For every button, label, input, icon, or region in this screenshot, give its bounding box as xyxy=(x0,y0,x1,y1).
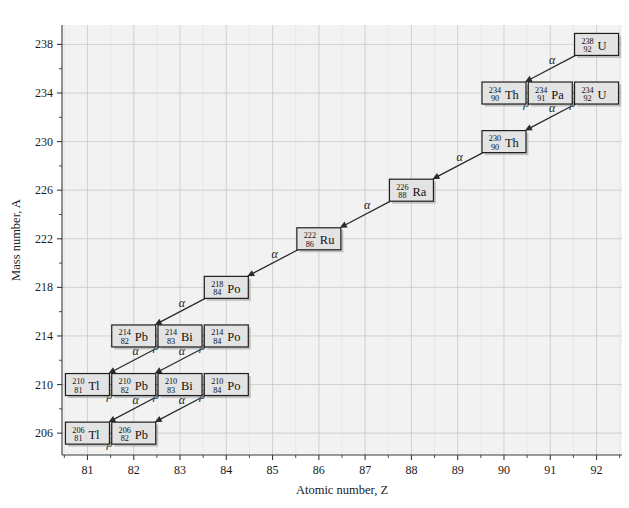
atomic-number: 84 xyxy=(213,288,221,297)
x-tick-label: 91 xyxy=(544,463,556,477)
element-symbol: Pb xyxy=(135,428,148,442)
atomic-number: 90 xyxy=(491,143,499,152)
element-symbol: Th xyxy=(505,136,520,150)
atomic-number: 82 xyxy=(121,337,129,346)
element-symbol: Po xyxy=(227,282,240,296)
nuclide-box[interactable]: 20682Pb xyxy=(112,422,159,447)
nuclide-box[interactable]: 23090Th xyxy=(482,131,529,156)
nuclide-box[interactable]: 21884Po xyxy=(204,276,251,301)
element-symbol: Tl xyxy=(88,379,100,393)
y-tick-label: 210 xyxy=(35,378,53,392)
element-symbol: Bi xyxy=(181,330,193,344)
x-tick-label: 83 xyxy=(174,463,186,477)
element-symbol: Bi xyxy=(181,379,193,393)
nuclide-box[interactable]: 21083Bi xyxy=(158,374,205,399)
nuclide-box[interactable]: 20681Tl xyxy=(65,422,112,447)
y-tick-label: 230 xyxy=(35,135,53,149)
atomic-number: 91 xyxy=(537,94,545,103)
y-tick-label: 218 xyxy=(35,280,53,294)
nuclide-box[interactable]: 23492U xyxy=(575,82,622,107)
x-tick-label: 82 xyxy=(128,463,140,477)
atomic-number: 86 xyxy=(306,240,314,249)
atomic-number: 84 xyxy=(213,386,221,395)
x-axis-title: Atomic number, Z xyxy=(296,483,388,497)
y-tick-label: 222 xyxy=(35,232,53,246)
nuclide-box[interactable]: 22688Ra xyxy=(389,179,436,204)
atomic-number: 82 xyxy=(121,434,129,443)
nuclide-box[interactable]: 23892U xyxy=(575,33,622,58)
atomic-number: 83 xyxy=(167,386,175,395)
atomic-number: 83 xyxy=(167,337,175,346)
nuclide-box[interactable]: 21483Bi xyxy=(158,325,205,350)
element-symbol: Pa xyxy=(551,88,564,102)
y-tick-label: 234 xyxy=(35,86,53,100)
atomic-number: 90 xyxy=(491,94,499,103)
x-tick-label: 88 xyxy=(405,463,417,477)
nuclide-box[interactable]: 23491Pa xyxy=(528,82,575,107)
nuclide-box[interactable]: 21482Pb xyxy=(112,325,159,350)
y-axis-title: Mass number, A xyxy=(9,199,23,281)
x-tick-label: 84 xyxy=(220,463,232,477)
atomic-number: 81 xyxy=(74,386,82,395)
decay-label-alpha: α xyxy=(271,247,278,261)
atomic-number: 82 xyxy=(121,386,129,395)
element-symbol: Ra xyxy=(412,185,426,199)
nuclide-box[interactable]: 21084Po xyxy=(204,374,251,399)
atomic-number: 92 xyxy=(583,45,591,54)
element-symbol: Po xyxy=(227,330,240,344)
x-tick-label: 92 xyxy=(591,463,603,477)
nuclide-box[interactable]: 22286Ru xyxy=(297,228,344,253)
x-tick-label: 86 xyxy=(313,463,325,477)
element-symbol: Pb xyxy=(135,379,148,393)
element-symbol: Ru xyxy=(320,233,335,247)
atomic-number: 92 xyxy=(583,94,591,103)
y-tick-label: 214 xyxy=(35,329,53,343)
atomic-number: 88 xyxy=(398,191,406,200)
nuclide-box[interactable]: 23490Th xyxy=(482,82,529,107)
nuclide-box[interactable]: 21082Pb xyxy=(112,374,159,399)
element-symbol: Th xyxy=(505,88,520,102)
nuclide-box[interactable]: 21484Po xyxy=(204,325,251,350)
element-symbol: Tl xyxy=(88,428,100,442)
nuclide-box[interactable]: 21081Tl xyxy=(65,374,112,399)
x-tick-label: 81 xyxy=(81,463,93,477)
decay-label-alpha: α xyxy=(457,150,464,164)
x-tick-label: 89 xyxy=(452,463,464,477)
y-tick-label: 226 xyxy=(35,183,53,197)
x-tick-label: 87 xyxy=(359,463,371,477)
decay-label-alpha: α xyxy=(364,198,371,212)
decay-label-alpha: α xyxy=(179,296,186,310)
decay-chain-plot: 8182838485868788899091922062102142182222… xyxy=(0,0,629,508)
y-tick-label: 206 xyxy=(35,426,53,440)
decay-label-alpha: α xyxy=(549,53,556,67)
decay-chain-figure: 8182838485868788899091922062102142182222… xyxy=(0,0,629,508)
element-symbol: Pb xyxy=(135,330,148,344)
x-tick-label: 90 xyxy=(498,463,510,477)
y-tick-label: 238 xyxy=(35,37,53,51)
element-symbol: Po xyxy=(227,379,240,393)
atomic-number: 84 xyxy=(213,337,221,346)
element-symbol: U xyxy=(598,39,607,53)
x-tick-label: 85 xyxy=(267,463,279,477)
element-symbol: U xyxy=(598,88,607,102)
atomic-number: 81 xyxy=(74,434,82,443)
